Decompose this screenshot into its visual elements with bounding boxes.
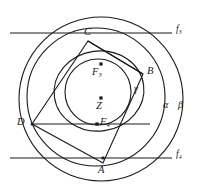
point-marker-a: [102, 157, 105, 160]
label-point-f4: F4: [100, 117, 110, 128]
label-f3-line-sub: 3: [179, 29, 182, 35]
label-point-z: Z: [96, 101, 102, 112]
circle-alpha: [27, 28, 165, 166]
point-marker-d: [31, 123, 34, 126]
label-point-b: B: [147, 66, 153, 77]
label-point-f3: F3: [92, 67, 102, 78]
geometry-figure: [0, 0, 198, 186]
quadrilateral-abcd: [32, 41, 143, 163]
label-f4-line-sub: 4: [179, 154, 182, 160]
label-f4-sub: 4: [106, 121, 109, 128]
label-point-a: A: [98, 165, 104, 176]
label-curve-beta: β: [178, 100, 183, 110]
point-marker-f3: [99, 62, 102, 65]
label-curve-gamma: γ: [134, 84, 138, 94]
label-point-d: D: [17, 117, 25, 128]
point-marker-f4: [95, 122, 98, 125]
label-point-c: C: [84, 27, 91, 38]
label-line-f4: f4: [176, 150, 182, 161]
label-line-f3: f3: [176, 25, 182, 36]
label-curve-alpha: α: [163, 100, 168, 110]
label-f3-sub: 3: [98, 71, 101, 78]
